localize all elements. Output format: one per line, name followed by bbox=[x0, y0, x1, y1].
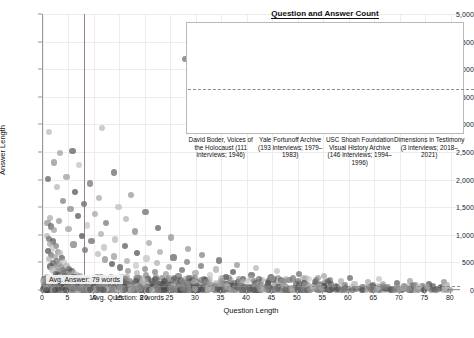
y-axis-label: Answer Length bbox=[0, 125, 7, 175]
scatter-point bbox=[185, 246, 191, 252]
x-axis-label: Question Length bbox=[42, 306, 460, 315]
scatter-point bbox=[125, 268, 131, 274]
scatter-point bbox=[168, 234, 174, 240]
scatter-point bbox=[128, 192, 134, 198]
x-tick-mark bbox=[424, 290, 425, 294]
scatter-point bbox=[60, 198, 66, 204]
scatter-point bbox=[199, 252, 205, 258]
x-tick-mark bbox=[195, 290, 196, 294]
y-tick-mark bbox=[38, 69, 42, 70]
chart-root: Answer Length 05001,0001,5002,0002,5003,… bbox=[0, 0, 474, 338]
scatter-point bbox=[70, 241, 76, 247]
x-tick-mark bbox=[67, 290, 68, 294]
x-tick-label: 70 bbox=[395, 294, 403, 301]
y-tick-mark bbox=[38, 262, 42, 263]
scatter-point bbox=[109, 261, 115, 267]
scatter-point bbox=[111, 253, 117, 259]
scatter-point bbox=[132, 228, 138, 234]
scatter-point bbox=[170, 254, 176, 260]
scatter-point bbox=[184, 259, 190, 265]
scatter-point bbox=[98, 231, 104, 237]
scatter-point bbox=[92, 211, 98, 217]
scatter-point bbox=[198, 277, 204, 283]
scatter-point bbox=[88, 238, 94, 244]
scatter-point bbox=[115, 204, 121, 210]
scatter-point bbox=[253, 265, 259, 271]
scatter-point bbox=[67, 206, 73, 212]
scatter-point bbox=[146, 240, 152, 246]
scatter-point bbox=[51, 227, 57, 233]
scatter-point bbox=[76, 162, 82, 168]
y-tick-label: 2,000 bbox=[438, 176, 474, 183]
y-tick-label: 500 bbox=[438, 259, 474, 266]
scatter-point bbox=[56, 218, 62, 224]
x-tick-mark bbox=[220, 290, 221, 294]
scatter-point bbox=[133, 262, 139, 268]
y-tick-mark bbox=[38, 41, 42, 42]
scatter-point bbox=[179, 278, 185, 284]
scatter-point bbox=[198, 263, 204, 269]
x-tick-label: 65 bbox=[369, 294, 377, 301]
scatter-point bbox=[102, 256, 108, 262]
legend-caption: Yale Fortunoff Archive (193 interviews; … bbox=[254, 136, 326, 159]
x-tick-label: 55 bbox=[318, 294, 326, 301]
scatter-point bbox=[406, 286, 412, 292]
y-tick-label: 1,000 bbox=[438, 231, 474, 238]
scatter-point bbox=[251, 287, 257, 293]
scatter-point bbox=[142, 209, 148, 215]
scatter-point bbox=[216, 257, 222, 263]
scatter-point bbox=[166, 275, 172, 281]
scatter-point bbox=[45, 176, 51, 182]
scatter-point bbox=[359, 287, 365, 293]
scatter-point bbox=[157, 249, 163, 255]
scatter-point bbox=[101, 244, 107, 250]
y-tick-mark bbox=[38, 234, 42, 235]
y-tick-mark bbox=[38, 207, 42, 208]
scatter-point bbox=[96, 195, 102, 201]
scatter-point bbox=[63, 174, 69, 180]
x-tick-mark bbox=[348, 290, 349, 294]
scatter-point bbox=[134, 250, 140, 256]
x-tick-label: 60 bbox=[344, 294, 352, 301]
scatter-point bbox=[95, 251, 101, 257]
scatter-point bbox=[57, 150, 63, 156]
y-tick-mark bbox=[38, 179, 42, 180]
x-tick-mark bbox=[271, 290, 272, 294]
scatter-point bbox=[274, 268, 280, 274]
scatter-point bbox=[52, 287, 58, 293]
y-tick-mark bbox=[38, 96, 42, 97]
y-tick-label: 0 bbox=[438, 287, 474, 294]
x-tick-mark bbox=[169, 290, 170, 294]
y-tick-mark bbox=[38, 14, 42, 15]
avg-question-annotation: Avg. Question: 8 words bbox=[89, 293, 167, 302]
scatter-point bbox=[209, 286, 215, 292]
x-tick-mark bbox=[373, 290, 374, 294]
legend-panel bbox=[186, 22, 464, 134]
scatter-point bbox=[87, 180, 93, 186]
gridline-horizontal bbox=[43, 207, 460, 208]
y-tick-label: 1,500 bbox=[438, 204, 474, 211]
x-tick-mark bbox=[246, 290, 247, 294]
scatter-point bbox=[84, 222, 90, 228]
scatter-point bbox=[99, 125, 105, 131]
x-tick-label: 30 bbox=[191, 294, 199, 301]
scatter-point bbox=[46, 129, 52, 135]
y-tick-mark bbox=[38, 152, 42, 153]
scatter-point bbox=[117, 264, 123, 270]
scatter-point bbox=[230, 269, 236, 275]
legend-caption: USC Shoah Foundation Visual History Arch… bbox=[324, 136, 396, 166]
legend-caption: Dimensions in Testimony (3 interviews; 2… bbox=[393, 136, 465, 159]
x-tick-label: 75 bbox=[420, 294, 428, 301]
x-tick-label: 80 bbox=[446, 294, 454, 301]
x-tick-label: 45 bbox=[267, 294, 275, 301]
y-tick-mark bbox=[38, 124, 42, 125]
legend-title-text: Question and Answer Count bbox=[271, 9, 378, 19]
scatter-point bbox=[124, 258, 130, 264]
legend-baseline bbox=[188, 89, 474, 90]
x-tick-label: 35 bbox=[217, 294, 225, 301]
scatter-point bbox=[54, 184, 60, 190]
scatter-point bbox=[103, 220, 109, 226]
scatter-point bbox=[112, 236, 118, 242]
gridline-horizontal bbox=[43, 235, 460, 236]
scatter-point bbox=[142, 266, 148, 272]
